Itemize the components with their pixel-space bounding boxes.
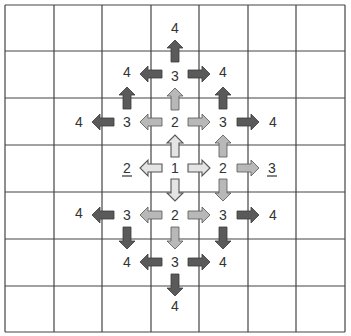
distance-label: 4 <box>269 114 277 130</box>
distance-label: 4 <box>123 254 131 270</box>
arrow-up-icon <box>215 135 231 157</box>
distance-label: 4 <box>219 254 227 270</box>
arrow-left-icon <box>92 207 114 223</box>
arrow-up-icon <box>167 135 183 157</box>
distance-label: 1 <box>171 160 179 176</box>
distance-label: 4 <box>75 205 83 221</box>
distance-label: 2 <box>219 160 227 176</box>
distance-label: 4 <box>219 64 227 80</box>
arrow-down-icon <box>119 227 135 249</box>
arrow-down-icon <box>167 274 183 296</box>
distance-label: 3 <box>123 114 131 130</box>
bfs-grid-diagram: 1222233333334444444444 <box>0 0 351 336</box>
distance-label: 3 <box>268 160 276 176</box>
arrow-down-icon <box>167 179 183 201</box>
distance-label: 4 <box>269 207 277 223</box>
distance-label: 3 <box>171 254 179 270</box>
distance-label: 2 <box>171 207 179 223</box>
distance-label: 4 <box>171 20 179 36</box>
distance-label: 3 <box>123 207 131 223</box>
grid-canvas: 1222233333334444444444 <box>0 0 351 336</box>
distance-label: 4 <box>75 114 83 130</box>
arrow-down-icon <box>215 227 231 249</box>
distance-label: 3 <box>219 114 227 130</box>
distance-label: 4 <box>123 64 131 80</box>
arrow-left-icon <box>92 114 114 130</box>
distance-label: 3 <box>171 68 179 84</box>
distance-label: 4 <box>171 298 179 314</box>
distance-label: 2 <box>123 160 131 176</box>
arrow-up-icon <box>167 88 183 110</box>
arrow-down-icon <box>215 179 231 201</box>
distance-label: 2 <box>171 114 179 130</box>
distance-label: 3 <box>219 207 227 223</box>
arrow-down-icon <box>167 227 183 249</box>
